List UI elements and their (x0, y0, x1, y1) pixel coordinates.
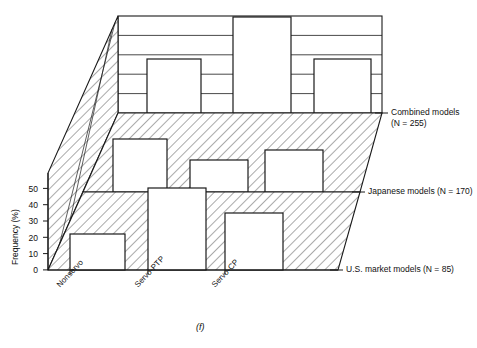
row-label-combined-models: Combined models (N = 255) (391, 107, 460, 128)
figure-caption: (f) (196, 322, 205, 332)
bar-japanese-nonservo (113, 139, 167, 192)
y-tick-30: 30 (20, 216, 38, 226)
y-tick-20: 20 (20, 233, 38, 243)
row-label-combined-line1: Combined models (391, 107, 460, 118)
row-label-japanese-models: Japanese models (N = 170) (368, 186, 473, 197)
row-label-combined-line2: (N = 255) (391, 118, 460, 129)
y-tick-0: 0 (20, 265, 38, 275)
x-axis (48, 270, 338, 275)
bar-combined-nonservo (147, 59, 201, 113)
bar-chart-3d (0, 0, 477, 348)
row-label-us-market-models: U.S. market models (N = 85) (346, 264, 454, 275)
y-axis-title: Frequency (%) (10, 209, 20, 265)
figure-container: 50 40 30 20 10 0 Frequency (%) Nonservo … (0, 0, 477, 348)
bar-japanese-servo-ptp (190, 160, 248, 192)
y-tick-10: 10 (20, 249, 38, 259)
y-tick-50: 50 (20, 184, 38, 194)
bar-combined-servo-ptp (233, 17, 291, 113)
bar-combined-servo-cp (314, 59, 371, 113)
y-tick-40: 40 (20, 200, 38, 210)
y-axis (43, 173, 48, 270)
bar-japanese-servo-cp (265, 150, 323, 192)
